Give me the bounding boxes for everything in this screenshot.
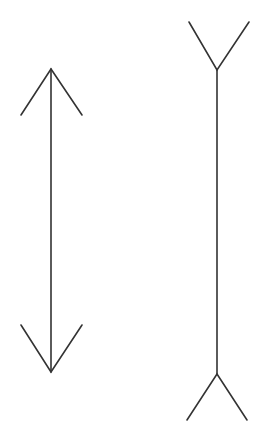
right-top-fins — [189, 22, 249, 70]
right-bottom-fins — [187, 374, 247, 420]
right-fin-figure — [187, 22, 249, 420]
muller-lyer-diagram — [0, 0, 276, 439]
left-arrow-figure — [21, 69, 82, 372]
